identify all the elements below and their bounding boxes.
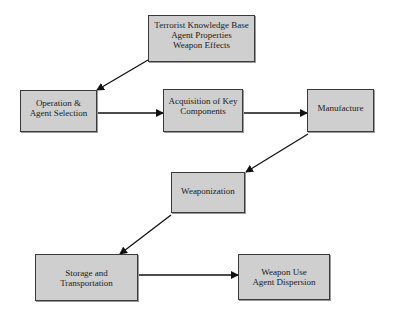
node-acquisition-key-components: Acquisition of Key Components [163,89,243,132]
node-label-line: Weapon Use [261,267,307,277]
node-label-line: Operation & [36,98,81,108]
flowchart-canvas: Terrorist Knowledge Base Agent Propertie… [0,0,394,322]
node-operation-agent-selection: Operation & Agent Selection [20,90,97,132]
node-label-line: Manufacture [318,103,364,113]
node-weapon-use-agent-dispersion: Weapon Use Agent Dispersion [238,254,330,300]
arrow-knowledge-to-operation [97,60,148,90]
node-label-line: Agent Selection [30,108,88,118]
arrow-manufacture-to-weaponization [246,134,308,172]
node-label-line: Components [180,106,226,116]
node-label-line: Agent Dispersion [252,277,315,287]
node-label-line: Storage and [65,268,108,278]
node-storage-transportation: Storage and Transportation [35,254,138,301]
node-label-line: Terrorist Knowledge Base [154,20,248,30]
node-label-line: Acquisition of Key [169,96,238,106]
node-label-line: Transportation [60,278,113,288]
node-label-line: Weaponization [181,186,235,196]
node-weaponization: Weaponization [171,172,245,213]
node-label-line: Weapon Effects [173,40,230,50]
node-terrorist-knowledge-base: Terrorist Knowledge Base Agent Propertie… [148,15,255,62]
arrow-weaponization-to-storage [120,215,171,254]
node-label-line: Agent Properties [171,30,232,40]
node-manufacture: Manufacture [307,89,374,132]
